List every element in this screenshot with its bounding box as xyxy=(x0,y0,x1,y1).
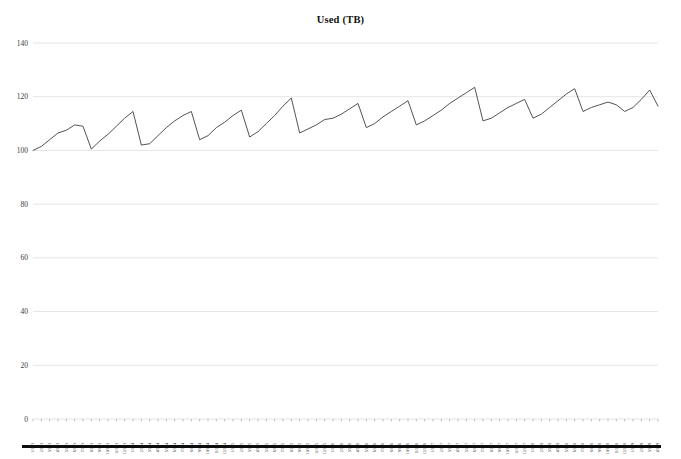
chart-container: Used (TB) 020406080100120140 1/1/132/1/1… xyxy=(0,0,681,459)
bottom-rule xyxy=(22,445,661,448)
x-axis-ticks xyxy=(33,419,658,422)
y-axis-tick-label: 80 xyxy=(21,200,29,209)
y-axis-labels: 020406080100120140 xyxy=(17,39,29,424)
y-axis-tick-label: 20 xyxy=(21,361,29,370)
y-axis-tick-label: 140 xyxy=(17,39,29,48)
y-axis-tick-label: 60 xyxy=(21,253,29,262)
gridlines-group xyxy=(33,43,658,419)
y-axis-tick-label: 0 xyxy=(24,415,28,424)
y-axis-tick-label: 40 xyxy=(21,307,29,316)
y-axis-tick-label: 100 xyxy=(17,146,29,155)
chart-plot-area: 020406080100120140 1/1/132/1/133/1/134/1… xyxy=(0,0,681,459)
y-axis-tick-label: 120 xyxy=(17,92,29,101)
